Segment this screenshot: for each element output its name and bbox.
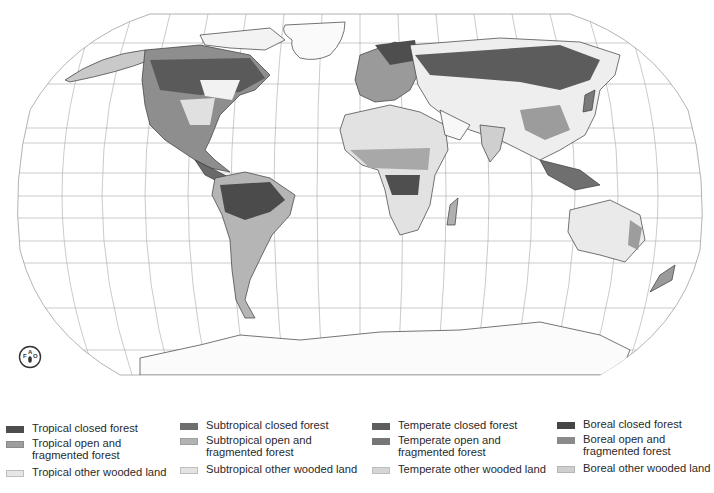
swatch xyxy=(372,438,390,445)
swatch xyxy=(180,467,198,474)
swatch xyxy=(180,423,198,430)
legend-item-boreal-other: Boreal other wooded land xyxy=(557,462,711,474)
swatch xyxy=(6,441,24,448)
legend-item-temperate-closed: Temperate closed forest xyxy=(372,419,517,431)
swatch xyxy=(372,467,390,474)
legend-item-subtropical-other: Subtropical other wooded land xyxy=(180,463,357,475)
fao-emblem-icon: F A O xyxy=(18,345,42,369)
legend: Tropical closed forest Tropical open and… xyxy=(0,418,714,493)
legend-item-temperate-other: Temperate other wooded land xyxy=(372,463,546,475)
svg-text:O: O xyxy=(33,353,38,359)
legend-item-boreal-open: Boreal open andfragmented forest xyxy=(557,433,671,457)
swatch xyxy=(557,437,575,444)
legend-item-subtropical-closed: Subtropical closed forest xyxy=(180,419,329,431)
legend-item-boreal-closed: Boreal closed forest xyxy=(557,418,682,430)
legend-item-temperate-open: Temperate open andfragmented forest xyxy=(372,434,501,458)
legend-item-tropical-closed: Tropical closed forest xyxy=(6,422,138,434)
legend-item-tropical-open: Tropical open andfragmented forest xyxy=(6,437,121,461)
swatch xyxy=(557,422,575,429)
world-forest-map xyxy=(0,0,714,390)
legend-item-subtropical-open: Subtropical open andfragmented forest xyxy=(180,434,312,458)
swatch xyxy=(372,423,390,430)
map-canvas xyxy=(0,0,714,390)
legend-item-tropical-other: Tropical other wooded land xyxy=(6,466,167,478)
svg-text:F: F xyxy=(23,353,27,359)
swatch xyxy=(557,466,575,473)
swatch xyxy=(6,470,24,477)
swatch xyxy=(180,438,198,445)
swatch xyxy=(6,426,24,433)
